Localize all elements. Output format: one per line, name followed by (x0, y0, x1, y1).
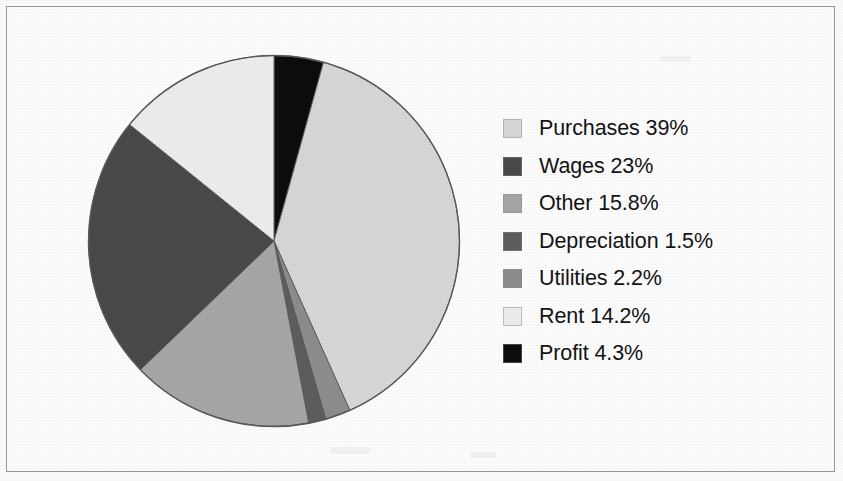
legend-swatch-rent (503, 307, 522, 326)
legend-item-wages: Wages 23% (503, 148, 823, 186)
pie-chart-figure: Purchases 39%Wages 23%Other 15.8%Depreci… (0, 0, 843, 481)
legend-item-purchases: Purchases 39% (503, 110, 823, 148)
legend-label-other: Other 15.8% (539, 191, 659, 216)
legend-swatch-wages (503, 157, 522, 176)
legend-label-rent: Rent 14.2% (539, 304, 650, 329)
legend-swatch-other (503, 194, 522, 213)
legend-item-rent: Rent 14.2% (503, 298, 823, 336)
pie-chart-svg (82, 49, 466, 433)
legend-item-utilities: Utilities 2.2% (503, 260, 823, 298)
legend-item-profit: Profit 4.3% (503, 335, 823, 373)
legend-label-depreciation: Depreciation 1.5% (539, 229, 713, 254)
legend-item-other: Other 15.8% (503, 185, 823, 223)
legend-item-depreciation: Depreciation 1.5% (503, 223, 823, 261)
legend-label-profit: Profit 4.3% (539, 341, 643, 366)
legend-label-wages: Wages 23% (539, 154, 653, 179)
chart-legend: Purchases 39%Wages 23%Other 15.8%Depreci… (503, 110, 823, 373)
page-root: Purchases 39%Wages 23%Other 15.8%Depreci… (0, 0, 843, 481)
legend-swatch-utilities (503, 269, 522, 288)
pie-slice-group (89, 55, 460, 426)
legend-label-purchases: Purchases 39% (539, 116, 688, 141)
legend-label-utilities: Utilities 2.2% (539, 266, 662, 291)
legend-swatch-profit (503, 344, 522, 363)
legend-swatch-depreciation (503, 232, 522, 251)
legend-swatch-purchases (503, 119, 522, 138)
